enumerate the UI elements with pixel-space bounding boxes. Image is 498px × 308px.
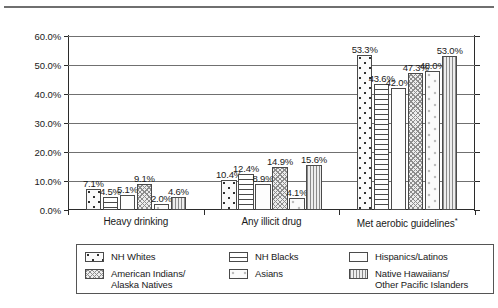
y-axis-label: 0.0%	[40, 205, 61, 216]
y-axis-tick	[64, 152, 68, 153]
y-axis-label: 20.0%	[35, 147, 61, 158]
bar-american-indians-0: 9.1%	[137, 184, 153, 210]
category-tick	[475, 210, 476, 215]
legend-swatch-asians	[229, 269, 248, 279]
bar-value-label: 5.1%	[117, 184, 138, 195]
right-axis-tick	[475, 36, 480, 37]
legend-label: Asians	[255, 268, 283, 280]
chart-figure: 0.0%10.0%20.0%30.0%40.0%50.0%60.0% 7.1%4…	[0, 0, 498, 308]
legend-item: American Indians/ Alaska Natives	[85, 268, 225, 291]
legend-item: NH Blacks	[229, 251, 347, 263]
y-axis-tick	[64, 36, 68, 37]
y-axis-tick	[64, 65, 68, 66]
bar-native-hawaiians-0: 4.6%	[171, 197, 187, 210]
y-axis-label: 30.0%	[35, 118, 61, 129]
right-axis-tick	[475, 123, 480, 124]
legend-item: NH Whites	[85, 251, 225, 263]
bar-value-label: 4.6%	[168, 186, 189, 197]
category-tick	[68, 210, 69, 215]
gridline	[68, 36, 475, 37]
bar-value-label: 9.1%	[134, 173, 155, 184]
bar-nh-blacks-2: 43.6%	[374, 84, 390, 210]
bar-native-hawaiians-1: 15.6%	[306, 165, 322, 210]
bar-nh-blacks-0: 4.5%	[103, 197, 119, 210]
bar-hispanics-1: 8.9%	[255, 184, 271, 210]
right-axis-tick	[475, 152, 480, 153]
y-axis-label: 40.0%	[35, 89, 61, 100]
bar-american-indians-2: 47.3%	[408, 73, 424, 210]
bar-asians-0: 2.0%	[154, 204, 170, 210]
y-axis-tick	[64, 181, 68, 182]
y-axis-tick	[64, 94, 68, 95]
plot-area: 0.0%10.0%20.0%30.0%40.0%50.0%60.0% 7.1%4…	[68, 36, 475, 210]
bar-native-hawaiians-2: 53.0%	[442, 56, 458, 210]
legend-label: Hispanics/Latinos	[375, 251, 448, 263]
chart-legend: NH WhitesAmerican Indians/ Alaska Native…	[76, 244, 494, 294]
category-label-1: Any illicit drug	[241, 216, 301, 227]
y-axis-label: 60.0%	[35, 31, 61, 42]
bar-hispanics-0: 5.1%	[120, 195, 136, 210]
bar-american-indians-1: 14.9%	[272, 167, 288, 210]
bar-asians-1: 4.1%	[289, 198, 305, 210]
y-axis-label: 50.0%	[35, 60, 61, 71]
legend-label: NH Blacks	[255, 251, 298, 263]
bar-value-label: 53.3%	[352, 44, 378, 55]
bar-asians-2: 48.0%	[425, 71, 441, 210]
footnote-marker: *	[455, 216, 458, 225]
legend-item: Native Hawaiians/ Other Pacific Islander…	[349, 268, 489, 291]
legend-swatch-nh-whites	[85, 252, 104, 262]
bar-value-label: 8.9%	[253, 173, 274, 184]
y-axis-label: 10.0%	[35, 176, 61, 187]
top-divider-rule	[4, 6, 494, 8]
bar-value-label: 53.0%	[437, 45, 463, 56]
legend-swatch-native-hawaiians	[349, 269, 368, 279]
legend-column-2: NH BlacksAsians	[229, 251, 347, 284]
right-axis-tick	[475, 94, 480, 95]
legend-column-1: NH WhitesAmerican Indians/ Alaska Native…	[85, 251, 225, 296]
category-label-2: Met aerobic guidelines*	[357, 216, 458, 229]
legend-label: NH Whites	[111, 251, 156, 263]
bar-nh-blacks-1: 12.4%	[238, 174, 254, 210]
legend-swatch-american-indians	[85, 269, 104, 279]
bar-nh-whites-0: 7.1%	[86, 189, 102, 210]
category-tick	[339, 210, 340, 215]
bar-value-label: 15.6%	[301, 154, 327, 165]
right-axis-tick	[475, 65, 480, 66]
bar-value-label: 14.9%	[267, 156, 293, 167]
y-axis-tick	[64, 123, 68, 124]
bar-value-label: 4.1%	[287, 187, 308, 198]
legend-swatch-hispanics-latinos	[349, 252, 368, 262]
right-axis-tick	[475, 181, 480, 182]
category-label-0: Heavy drinking	[103, 216, 168, 227]
legend-label: Native Hawaiians/ Other Pacific Islander…	[375, 268, 468, 291]
legend-swatch-nh-blacks	[229, 252, 248, 262]
legend-item: Hispanics/Latinos	[349, 251, 489, 263]
legend-item: Asians	[229, 268, 347, 280]
legend-column-3: Hispanics/LatinosNative Hawaiians/ Other…	[349, 251, 489, 296]
legend-label: American Indians/ Alaska Natives	[111, 268, 185, 291]
bar-hispanics-2: 42.0%	[391, 88, 407, 210]
bar-nh-whites-1: 10.4%	[221, 180, 237, 210]
category-tick	[204, 210, 205, 215]
